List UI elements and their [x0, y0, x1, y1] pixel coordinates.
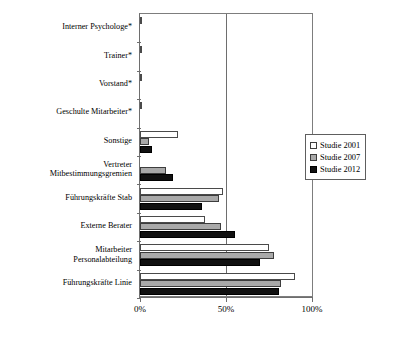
gray-square-icon: [310, 154, 317, 161]
category-label: Externe Berater: [0, 221, 132, 231]
bar-studie-2001: [140, 216, 205, 223]
bar-group: [140, 216, 312, 238]
bar-studie-2007: [140, 223, 221, 230]
x-axis-tick: [312, 297, 313, 302]
x-axis-tick-label: 0%: [134, 304, 146, 314]
category-label: Vorstand*: [0, 79, 132, 89]
bar-studie-2001: [140, 102, 142, 109]
category-tick: [137, 184, 141, 185]
bar-studie-2012: [140, 174, 173, 181]
bar-studie-2001: [140, 188, 223, 195]
bar-studie-2001: [140, 131, 178, 138]
bar-studie-2007: [140, 167, 166, 174]
bar-group: [140, 17, 312, 39]
category-label: Vertreter Mitbestimmungsgremien: [0, 160, 132, 179]
category-label: Führungskräfte Stab: [0, 193, 132, 203]
bar-group: [140, 244, 312, 266]
legend-label: Studie 2001: [320, 141, 360, 150]
legend-label: Studie 2012: [320, 165, 360, 174]
black-square-icon: [310, 166, 317, 173]
category-label: Mitarbeiter Personalabteilung: [0, 245, 132, 264]
category-label: Trainer*: [0, 51, 132, 61]
bar-group: [140, 102, 312, 124]
bar-studie-2007: [140, 138, 149, 145]
bar-studie-2007: [140, 195, 219, 202]
bar-group: [140, 74, 312, 96]
legend-item: Studie 2012: [310, 163, 360, 175]
x-axis-tick: [140, 297, 141, 302]
category-tick: [137, 241, 141, 242]
bar-group: [140, 159, 312, 181]
bar-group: [140, 131, 312, 153]
bar-studie-2001: [140, 17, 142, 24]
x-axis-tick-label: 50%: [218, 304, 235, 314]
category-tick: [137, 156, 141, 157]
bar-studie-2001: [140, 244, 269, 251]
legend-label: Studie 2007: [320, 153, 360, 162]
category-label: Geschulte Mitarbeiter*: [0, 107, 132, 117]
bar-group: [140, 188, 312, 210]
category-label: Interner Psychologe*: [0, 22, 132, 32]
legend-item: Studie 2001: [310, 139, 360, 151]
bar-studie-2007: [140, 280, 281, 287]
bar-group: [140, 46, 312, 68]
bar-studie-2001: [140, 273, 295, 280]
bar-studie-2001: [140, 46, 142, 53]
x-axis-tick: [226, 297, 227, 302]
bar-studie-2012: [140, 231, 235, 238]
bar-studie-2001: [140, 74, 142, 81]
category-tick: [137, 71, 141, 72]
category-label: Sonstige: [0, 136, 132, 146]
white-square-icon: [310, 142, 317, 149]
category-tick: [137, 213, 141, 214]
category-tick: [137, 99, 141, 100]
chart-legend: Studie 2001Studie 2007Studie 2012: [305, 134, 366, 180]
bar-studie-2007: [140, 252, 274, 259]
category-axis-labels: Interner Psychologe*Trainer*Vorstand*Ges…: [0, 13, 136, 297]
bar-group: [140, 273, 312, 295]
x-axis-tick-label: 100%: [302, 304, 323, 314]
bar-studie-2012: [140, 203, 202, 210]
bar-chart-figure: Interner Psychologe*Trainer*Vorstand*Ges…: [0, 0, 398, 338]
category-tick: [137, 128, 141, 129]
legend-item: Studie 2007: [310, 151, 360, 163]
x-axis: 0%50%100%: [139, 297, 313, 298]
category-tick: [137, 42, 141, 43]
bar-studie-2012: [140, 288, 279, 295]
plot-area: [139, 13, 313, 297]
category-tick: [137, 270, 141, 271]
bar-studie-2012: [140, 259, 260, 266]
bar-studie-2012: [140, 146, 152, 153]
category-label: Führungskräfte Linie: [0, 278, 132, 288]
